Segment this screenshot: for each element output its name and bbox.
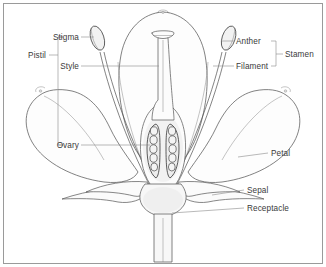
petal-left-tip-mark (39, 90, 42, 93)
flower-anatomy-diagram: Pistil Stigma Style Ovary Anther Filamen… (0, 0, 326, 267)
label-receptacle: Receptacle (247, 204, 289, 213)
ovule (168, 127, 175, 135)
ovule (168, 163, 175, 171)
ovule (150, 154, 157, 162)
ovule (150, 145, 157, 153)
ovule (169, 154, 176, 162)
label-petal: Petal (271, 149, 290, 158)
receptacle-shading (143, 187, 183, 213)
ovule (169, 136, 176, 144)
ovule (151, 163, 158, 171)
label-anther: Anther (236, 37, 261, 46)
label-sepal: Sepal (247, 186, 269, 195)
label-ovary: Ovary (57, 141, 80, 150)
label-stamen: Stamen (285, 50, 314, 59)
label-pistil: Pistil (28, 51, 46, 60)
petal-right-tip-mark (284, 90, 287, 93)
diagram-canvas: Pistil Stigma Style Ovary Anther Filamen… (0, 0, 326, 267)
ovule (169, 145, 176, 153)
ovule (150, 127, 157, 135)
label-filament: Filament (236, 62, 269, 71)
petal-rear-tip-mark (162, 11, 164, 13)
ovule (150, 136, 157, 144)
label-style: Style (60, 62, 79, 71)
label-stigma: Stigma (53, 33, 79, 42)
